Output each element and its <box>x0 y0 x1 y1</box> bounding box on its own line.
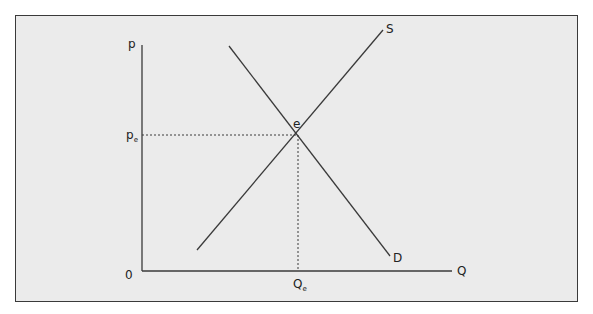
supply-demand-diagram: p Q 0 S D e pe Qe <box>0 0 593 314</box>
equilibrium-price-main: p <box>126 128 134 142</box>
supply-label: S <box>386 22 394 36</box>
origin-label: 0 <box>125 268 133 282</box>
equilibrium-quantity-main: Q <box>293 277 302 291</box>
equilibrium-quantity-sub: e <box>302 285 306 293</box>
equilibrium-price-label: pe <box>126 128 138 144</box>
y-axis-label: p <box>128 37 136 51</box>
x-axis-label: Q <box>457 264 466 278</box>
equilibrium-price-sub: e <box>134 136 138 144</box>
equilibrium-quantity-label: Qe <box>293 277 307 293</box>
demand-curve <box>229 46 390 256</box>
equilibrium-point-label: e <box>293 117 300 131</box>
supply-curve <box>197 30 383 250</box>
demand-label: D <box>393 251 402 265</box>
